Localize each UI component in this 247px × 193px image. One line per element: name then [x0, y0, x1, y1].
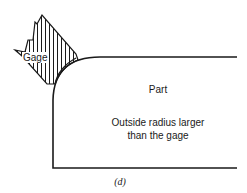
- gage-part-drawing: [0, 0, 247, 193]
- part-label: Part: [130, 84, 186, 95]
- gage-label: Gage: [22, 52, 48, 63]
- figure-caption: (d): [108, 176, 132, 187]
- radius-note-line2: than the gage: [98, 129, 218, 142]
- radius-note-line1: Outside radius larger: [98, 116, 218, 129]
- diagram-canvas: Gage Part Outside radius larger than the…: [0, 0, 247, 193]
- radius-note: Outside radius larger than the gage: [98, 116, 218, 142]
- gage-shape: [15, 15, 78, 84]
- part-outline: [53, 57, 237, 168]
